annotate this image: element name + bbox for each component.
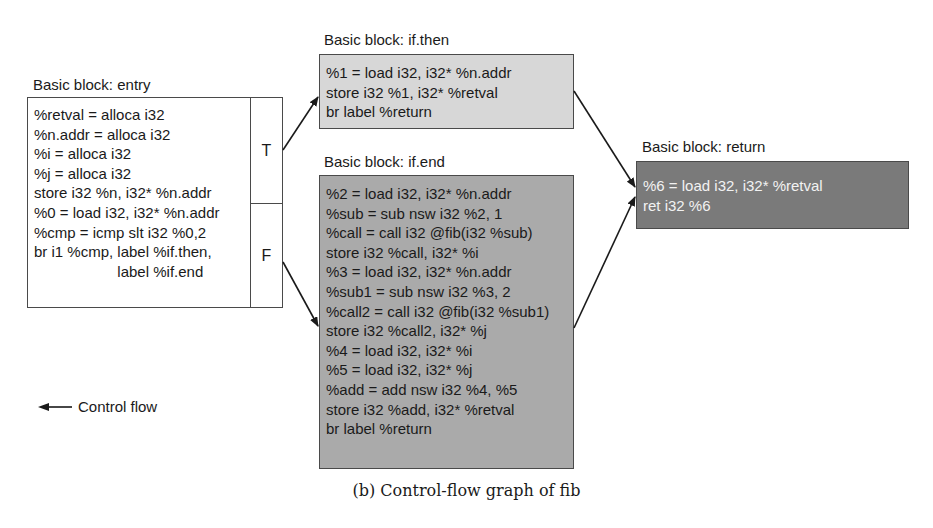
figure-caption: (b) Control-flow graph of fib [0,481,933,500]
edge-ifthen-to-return [574,91,635,187]
control-flow-edges [0,0,933,528]
legend-label: Control flow [78,398,157,415]
edge-ifend-to-return [574,197,635,328]
edge-entry-to-ifend [283,262,318,326]
legend: Control flow [38,398,157,415]
left-arrow-icon [38,402,72,412]
edge-entry-to-ifthen [283,97,318,150]
